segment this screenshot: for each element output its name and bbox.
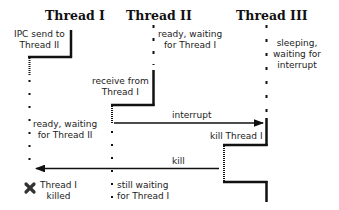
- ready-waiting-thread1-label: ready, waiting for Thread I: [158, 29, 222, 51]
- sleeping-label: sleeping, waiting for interrupt: [273, 38, 321, 71]
- cross-icon: [26, 184, 34, 192]
- thread-killed-label: Thread I killed: [40, 180, 77, 202]
- thread-1-timeline: [28, 30, 72, 170]
- still-waiting-label: still waiting for Thread I: [117, 180, 169, 202]
- thread-2-timeline: [111, 25, 155, 205]
- kill-thread-label: kill Thread I: [210, 131, 263, 142]
- thread-3-title: Thread III: [236, 8, 308, 23]
- thread-3-timeline: [223, 25, 268, 202]
- ipc-send-label: IPC send to Thread II: [14, 29, 65, 51]
- interrupt-label: interrupt: [172, 110, 211, 121]
- receive-label: receive from Thread I: [92, 76, 149, 98]
- kill-label: kill: [172, 156, 185, 167]
- thread-2-title: Thread II: [126, 8, 192, 23]
- thread-1-title: Thread I: [45, 8, 105, 23]
- ready-waiting-thread2-label: ready, waiting for Thread II: [33, 119, 97, 141]
